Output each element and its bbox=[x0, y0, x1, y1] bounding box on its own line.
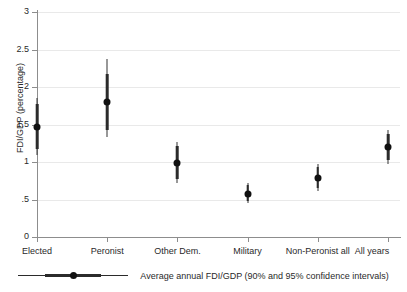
x-axis-tick-label: Non-Peronist all bbox=[286, 246, 350, 256]
x-axis-tick bbox=[318, 237, 319, 242]
data-point-marker bbox=[314, 174, 321, 181]
x-axis-tick-label: All years bbox=[355, 246, 390, 256]
y-axis-tick bbox=[32, 50, 37, 51]
plot-area bbox=[37, 12, 400, 237]
y-axis-tick-label: .5 bbox=[0, 194, 29, 204]
x-axis-tick bbox=[248, 237, 249, 242]
x-axis-tick bbox=[177, 237, 178, 242]
y-axis-tick-label: 2.5 bbox=[0, 44, 29, 54]
x-axis-tick bbox=[107, 237, 108, 242]
data-point-marker bbox=[244, 190, 251, 197]
gridline bbox=[37, 125, 400, 126]
x-axis-tick bbox=[37, 237, 38, 242]
x-axis-tick bbox=[388, 237, 389, 242]
y-axis-tick bbox=[32, 200, 37, 201]
y-axis-tick bbox=[32, 162, 37, 163]
gridline bbox=[37, 200, 400, 201]
gridline bbox=[37, 12, 400, 13]
y-axis-tick bbox=[32, 12, 37, 13]
x-axis-tick-label: Other Dem. bbox=[154, 246, 201, 256]
legend-key-symbol bbox=[18, 270, 128, 282]
gridline bbox=[37, 50, 400, 51]
gridline bbox=[37, 162, 400, 163]
x-axis-tick-label: Peronist bbox=[91, 246, 124, 256]
legend-point-marker-icon bbox=[70, 272, 77, 279]
y-axis-tick-label: 1 bbox=[0, 156, 29, 166]
gridline bbox=[37, 87, 400, 88]
x-axis-tick-label: Military bbox=[233, 246, 262, 256]
data-point-marker bbox=[174, 159, 181, 166]
data-point-marker bbox=[385, 144, 392, 151]
x-axis-line bbox=[37, 237, 401, 238]
y-axis-tick-label: 3 bbox=[0, 6, 29, 16]
y-axis-tick-label: 1.5 bbox=[0, 119, 29, 129]
x-axis-tick-label: Elected bbox=[22, 246, 52, 256]
y-axis-tick bbox=[32, 87, 37, 88]
legend-label: Average annual FDI/GDP (90% and 95% conf… bbox=[140, 271, 388, 281]
chart-page: FDI/GDP (percentage) 0.511.522.53 Electe… bbox=[0, 0, 407, 292]
y-axis-tick-label: 0 bbox=[0, 231, 29, 241]
data-point-marker bbox=[104, 99, 111, 106]
chart-legend: Average annual FDI/GDP (90% and 95% conf… bbox=[0, 264, 407, 288]
data-point-marker bbox=[34, 123, 41, 130]
y-axis-tick-label: 2 bbox=[0, 81, 29, 91]
